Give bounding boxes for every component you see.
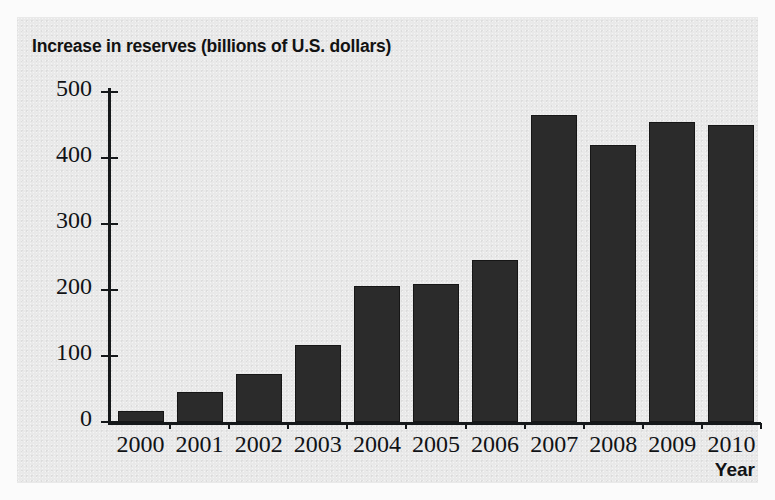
x-tick-label: 2000 [111,431,170,458]
x-tick-mark [701,423,703,429]
y-tick-mark [101,157,118,159]
x-tick-label: 2007 [525,431,584,458]
x-tick-label: 2002 [229,431,288,458]
y-tick-mark [101,223,118,225]
bar [295,345,341,422]
y-tick-mark [101,421,118,423]
bar [236,374,282,422]
bar [413,284,459,422]
x-tick-mark [583,423,585,429]
bar [354,286,400,422]
x-tick-mark [524,423,526,429]
bar-chart-plot: 0100200300400500 20002001200220032004200… [0,0,775,500]
y-tick-label: 100 [0,339,92,366]
x-tick-mark [228,423,230,429]
bar [590,145,636,422]
bar [118,411,164,422]
y-tick-mark [101,91,118,93]
x-tick-label: 2010 [702,431,761,458]
x-tick-label: 2003 [288,431,347,458]
x-tick-mark [405,423,407,429]
y-tick-label: 400 [0,141,92,168]
y-axis-line [108,88,111,425]
y-tick-label: 0 [0,405,92,432]
y-tick-mark [101,355,118,357]
x-tick-mark [642,423,644,429]
x-tick-label: 2009 [643,431,702,458]
x-tick-mark [169,423,171,429]
x-tick-label: 2005 [406,431,465,458]
bar [531,115,577,422]
x-tick-label: 2008 [584,431,643,458]
x-tick-mark [465,423,467,429]
chart-page: Increase in reserves (billions of U.S. d… [0,0,775,500]
x-tick-mark [760,423,762,429]
bar [177,392,223,422]
bar [472,260,518,422]
x-axis-line [108,422,761,425]
x-tick-label: 2004 [347,431,406,458]
y-tick-mark [101,289,118,291]
y-tick-label: 500 [0,75,92,102]
y-tick-label: 200 [0,273,92,300]
x-tick-label: 2001 [170,431,229,458]
y-tick-label: 300 [0,207,92,234]
x-tick-label: 2006 [466,431,525,458]
bar [649,122,695,422]
x-tick-mark [346,423,348,429]
x-axis-title: Year [715,459,755,481]
x-tick-mark [287,423,289,429]
bar [708,125,754,422]
